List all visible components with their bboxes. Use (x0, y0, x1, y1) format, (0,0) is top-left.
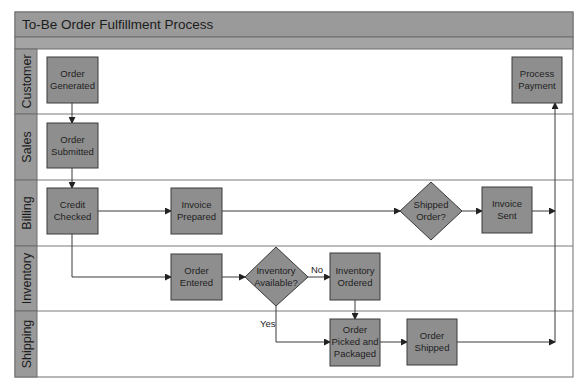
lane-label-customer: Customer (20, 54, 34, 108)
svg-text:Shipped: Shipped (414, 199, 449, 210)
svg-text:Sent: Sent (497, 210, 517, 221)
edge-label-no: No (311, 264, 323, 275)
svg-text:Process: Process (520, 68, 555, 79)
svg-text:Order: Order (60, 134, 84, 145)
svg-text:Invoice: Invoice (181, 199, 211, 210)
svg-text:Generated: Generated (50, 80, 95, 91)
svg-text:Prepared: Prepared (177, 211, 216, 222)
svg-text:Packaged: Packaged (334, 348, 376, 359)
lane-customer: Customer (15, 49, 37, 114)
node-credit-checked[interactable]: Credit Checked (47, 188, 98, 234)
svg-text:Order: Order (420, 330, 444, 341)
svg-text:Order: Order (60, 68, 84, 79)
svg-text:Entered: Entered (180, 277, 213, 288)
title-sub-band (15, 37, 573, 49)
lane-label-sales: Sales (20, 131, 34, 162)
svg-text:Checked: Checked (54, 211, 92, 222)
swimlane-diagram: To-Be Order Fulfillment Process Customer… (0, 0, 584, 385)
svg-text:Credit: Credit (60, 199, 86, 210)
title-bar: To-Be Order Fulfillment Process (15, 12, 573, 37)
svg-text:Order?: Order? (416, 211, 446, 222)
svg-text:Submitted: Submitted (51, 146, 94, 157)
svg-text:Inventory: Inventory (335, 265, 374, 276)
lane-inventory: Inventory (15, 246, 37, 311)
lane-sales: Sales (15, 114, 37, 180)
node-order-generated[interactable]: Order Generated (47, 57, 98, 103)
svg-text:Invoice: Invoice (492, 198, 522, 209)
edge-label-yes: Yes (260, 318, 276, 329)
svg-text:Ordered: Ordered (338, 277, 373, 288)
svg-text:Shipped: Shipped (415, 342, 450, 353)
node-process-payment[interactable]: Process Payment (512, 57, 562, 103)
lane-label-inventory: Inventory (20, 252, 34, 304)
svg-text:Inventory: Inventory (256, 265, 295, 276)
lane-billing: Billing (15, 180, 37, 246)
svg-text:Order: Order (343, 324, 367, 335)
svg-text:Available?: Available? (254, 277, 298, 288)
svg-text:Picked and: Picked and (331, 336, 378, 347)
node-invoice-prepared[interactable]: Invoice Prepared (171, 188, 222, 234)
node-order-picked-and-packaged[interactable]: Order Picked and Packaged (330, 319, 380, 366)
svg-text:Order: Order (184, 265, 208, 276)
node-invoice-sent[interactable]: Invoice Sent (482, 187, 532, 233)
lane-label-shipping: Shipping (20, 320, 34, 369)
node-order-entered[interactable]: Order Entered (171, 254, 222, 300)
node-order-submitted[interactable]: Order Submitted (47, 123, 98, 168)
svg-text:Payment: Payment (518, 80, 556, 91)
diagram-title: To-Be Order Fulfillment Process (22, 17, 214, 32)
node-inventory-ordered[interactable]: Inventory Ordered (330, 253, 380, 300)
lane-shipping: Shipping (15, 311, 37, 377)
lane-label-billing: Billing (20, 196, 34, 229)
node-order-shipped[interactable]: Order Shipped (407, 319, 457, 365)
